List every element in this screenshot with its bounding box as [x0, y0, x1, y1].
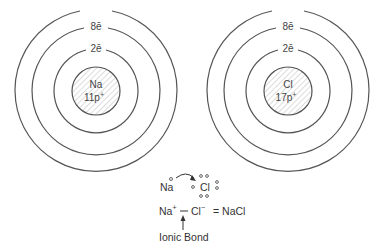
na-shell-label-8: 8ē	[90, 21, 102, 32]
electron-transfer: Na Cl	[160, 174, 218, 197]
ionic-bond-diagram: 8ē 2ē Na 11p+ 8ē 2ē Cl 17p+ Na Cl	[0, 0, 379, 250]
eq-cl: Cl	[200, 181, 210, 193]
cl-shell-label-2: 2ē	[282, 43, 294, 54]
na-nucleus	[72, 67, 120, 115]
eq-na-ion: Na+	[159, 204, 177, 217]
eq-cl-ion: Cl−	[191, 204, 205, 217]
cl-nucleus	[264, 67, 312, 115]
cl-symbol: Cl	[283, 79, 292, 90]
eq-na: Na	[160, 181, 174, 193]
chlorine-atom: 8ē 2ē Cl 17p+	[207, 11, 369, 171]
na-valence-electron	[170, 178, 173, 181]
ionic-bond-label: Ionic Bond	[159, 231, 209, 243]
eq-result: = NaCl	[213, 205, 245, 217]
na-symbol: Na	[90, 79, 103, 90]
sodium-atom: 8ē 2ē Na 11p+	[15, 11, 177, 171]
ionic-equation: Na+ Cl− = NaCl Ionic Bond	[159, 204, 245, 243]
na-shell-label-2: 2ē	[90, 43, 102, 54]
cl-shell-label-8: 8ē	[282, 21, 294, 32]
bond-pointer-arrow-icon	[181, 215, 186, 221]
